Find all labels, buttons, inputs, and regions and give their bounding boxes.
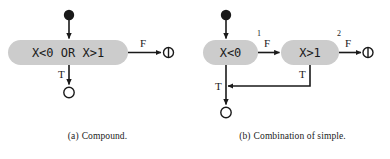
edge-label-d1-true: T (215, 80, 222, 92)
edge-label-false: F (140, 37, 146, 49)
initial-node-icon (221, 10, 231, 20)
decision-node-2-label: X>1 (299, 46, 321, 60)
decision-node-1-label: X<0 (220, 46, 242, 60)
combination-diagram: X<0 1 F X>1 2 F T T (195, 0, 390, 130)
caption-compound: (a)Compound. (0, 131, 195, 141)
panel-combination: X<0 1 F X>1 2 F T T (195, 0, 390, 159)
caption-text: Compound. (82, 131, 128, 141)
flow-final-node-icon (164, 48, 174, 58)
caption-tag: (b) (239, 131, 250, 141)
caption-text: Combination of simple. (254, 131, 346, 141)
edge-d2-true-branch (228, 65, 310, 86)
edge-label-d2-false: F (345, 37, 351, 49)
compound-diagram: X<0 OR X>1 F T (0, 0, 195, 130)
caption-tag: (a) (68, 131, 79, 141)
edge-label-true: T (58, 68, 65, 80)
panel-compound: X<0 OR X>1 F T (a)Compound. (0, 0, 195, 159)
edge-label-d2-true: T (299, 68, 306, 80)
initial-node-icon (64, 10, 74, 20)
final-node-icon (221, 107, 231, 117)
decision-node-1-index: 1 (257, 29, 261, 38)
flow-final-node-icon (363, 48, 373, 58)
decision-node-label: X<0 OR X>1 (32, 46, 104, 60)
final-node-icon (64, 87, 74, 97)
edge-label-d1-false: F (264, 37, 270, 49)
decision-node-2-index: 2 (337, 29, 341, 38)
figure-root: X<0 OR X>1 F T (a)Compound. (0, 0, 390, 159)
caption-combination: (b)Combination of simple. (195, 131, 390, 141)
